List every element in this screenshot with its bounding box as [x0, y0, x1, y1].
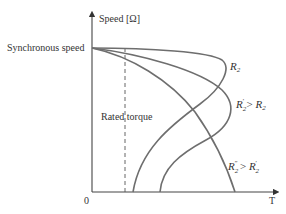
- synchronous-speed-label: Synchronous speed: [7, 42, 85, 53]
- label-r2-double-prime: R2″ > R2′: [227, 159, 260, 175]
- x-axis-label: T: [269, 195, 275, 206]
- label-r2-prime: R2′ > R2: [235, 97, 266, 113]
- svg-text:R2: R2: [229, 60, 241, 74]
- label-r2: R2: [229, 60, 241, 74]
- torque-speed-diagram: Speed [Ω] Synchronous speed Rated torque…: [0, 0, 286, 214]
- rated-torque-label: Rated torque: [101, 111, 153, 122]
- svg-text:R2′ > R2: R2′ > R2: [235, 97, 266, 113]
- origin-label: 0: [84, 195, 89, 206]
- svg-text:R2″ > R2′: R2″ > R2′: [227, 159, 260, 175]
- y-axis-label: Speed [Ω]: [99, 13, 140, 24]
